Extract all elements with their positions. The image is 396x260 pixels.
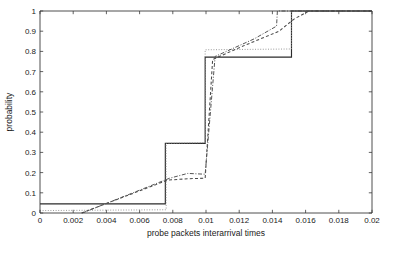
- x-tick-label: 0.006: [130, 216, 151, 225]
- x-tick-label: 0.008: [163, 216, 184, 225]
- x-tick-label: 0.004: [96, 216, 117, 225]
- y-axis-title: probability: [4, 92, 14, 131]
- x-tick-label: 0.016: [296, 216, 317, 225]
- x-tick-label: 0.012: [229, 216, 250, 225]
- y-tick-label: 0.5: [25, 108, 37, 117]
- chart-canvas: 00.0020.0040.0060.0080.010.0120.0140.016…: [0, 0, 396, 260]
- y-tick-label: 0.4: [25, 128, 37, 137]
- y-tick-label: 0.7: [25, 68, 37, 77]
- chart-figure: 00.0020.0040.0060.0080.010.0120.0140.016…: [0, 0, 396, 260]
- x-tick-label: 0.01: [198, 216, 214, 225]
- x-tick-label: 0.02: [364, 216, 380, 225]
- x-tick-label: 0.014: [262, 216, 283, 225]
- x-axis-title: probe packets interarrival times: [147, 228, 265, 238]
- x-tick-label: 0.018: [329, 216, 350, 225]
- x-tick-label: 0: [38, 216, 43, 225]
- y-tick-label: 0.1: [25, 189, 37, 198]
- y-tick-label: 0: [32, 209, 37, 218]
- y-tick-label: 0.6: [25, 88, 37, 97]
- x-tick-label: 0.002: [63, 216, 84, 225]
- y-tick-label: 0.8: [25, 47, 37, 56]
- y-tick-label: 1: [32, 7, 37, 16]
- y-tick-label: 0.2: [25, 169, 37, 178]
- y-tick-label: 0.9: [25, 27, 37, 36]
- y-tick-label: 0.3: [25, 148, 37, 157]
